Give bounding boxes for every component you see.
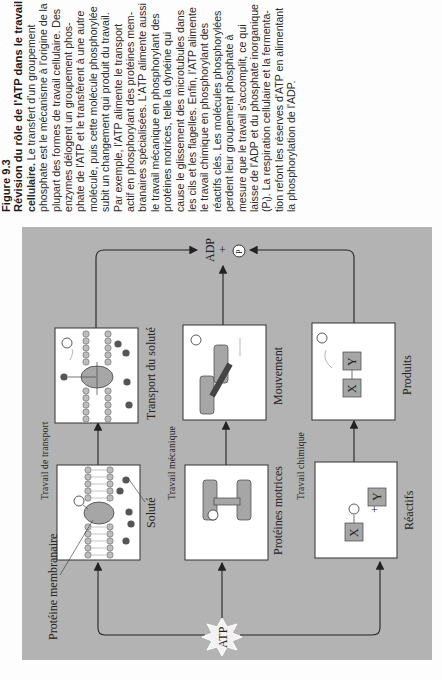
pi-released-icon: [191, 335, 201, 345]
plus-sign: +: [219, 243, 226, 257]
label-protein-line1: Protéine membranaire: [46, 534, 60, 640]
label-products: Produits: [400, 355, 414, 395]
phosphate-icon: [74, 496, 84, 506]
svg-text:ATP: ATP: [216, 626, 230, 648]
figure-svg: Figure 9.3Révision du rôle de l'ATP dans…: [0, 0, 442, 680]
caption-line: enzymes délogent un groupement phos-: [62, 22, 74, 212]
caption-line: laisse de l'ADP et du phosphate inorgani…: [248, 4, 260, 212]
pi-released-icon: [62, 338, 72, 348]
svg-text:+: +: [371, 503, 378, 517]
header-transport: Travail de transport: [40, 421, 50, 500]
pi-released-icon: [317, 333, 327, 343]
caption-line: plupart des formes de travail cellulaire…: [50, 9, 62, 212]
caption-line: cellulaire. Le transfert d'un groupement: [25, 24, 37, 212]
caption-line: (Pᵢ). La respiration cellulaire et la fe…: [260, 10, 272, 212]
caption-line: réactifs clés. Les molécules phosphorylé…: [211, 11, 223, 212]
caption-line: les cils et les flagelles. Enfin, l'ATP …: [186, 7, 198, 212]
caption-line: la phosphorylation de l'ADP.: [285, 81, 297, 212]
phosphate-icon: [349, 504, 359, 514]
adp-label: ADP: [203, 238, 217, 262]
caption-line: molécule, puis cette molécule phosphoryl…: [87, 6, 99, 212]
caption-line: Figure 9.3: [0, 159, 12, 212]
svg-text:P: P: [235, 249, 244, 254]
membrane-protein: [84, 502, 114, 524]
caption-line: Par exemple, l'ATP alimente le transport: [112, 24, 124, 212]
box-transport-after: [55, 328, 138, 423]
svg-text:X: X: [347, 528, 361, 537]
caption-line: le travail chimique en phosphorylant des: [198, 23, 210, 212]
label-movement: Mouvement: [271, 346, 285, 405]
caption-line: perdent leur groupement phosphate à: [223, 35, 235, 212]
caption-line: branaires spécialisées. L'ATP alimente a…: [136, 3, 148, 212]
caption-line: le travail mécanique en phosphorylant de…: [149, 14, 161, 212]
textbook-page: Figure 9.3Révision du rôle de l'ATP dans…: [0, 0, 442, 680]
caption-line: mesure que le travail s'accomplit, ce qu…: [236, 25, 248, 213]
caption-line: subit un changement qui produit du trava…: [99, 12, 111, 212]
svg-text:X: X: [345, 384, 359, 393]
caption-line: protéines motrices, telle la dynéine qui: [161, 32, 173, 212]
box-transport-before: [57, 465, 145, 575]
svg-text:Y: Y: [345, 357, 359, 366]
header-mechanical: Travail mécanique: [167, 426, 177, 500]
box-chemical-after: X Y: [312, 323, 395, 420]
caption-line: phate de l'ATP et le transfèrent à une a…: [74, 11, 86, 212]
header-chemical: Travail chimique: [296, 432, 306, 500]
diagram-panel: [22, 227, 432, 660]
figure-caption: Figure 9.3Révision du rôle de l'ATP dans…: [0, 1, 297, 212]
box-mechanical-before: [185, 465, 268, 560]
label-motor-proteins: Protéines motrices: [271, 466, 285, 555]
label-solute: Soluté: [144, 497, 158, 528]
phosphate-icon: [208, 510, 218, 520]
box-chemical-before: X Y +: [315, 462, 397, 558]
svg-text:Y: Y: [370, 492, 384, 501]
label-solute-transport: Transport du soluté: [144, 327, 158, 420]
caption-line: actif en phosphorylant des protéines mem…: [124, 11, 136, 212]
caption-line: tion refont les réserves d'ATP en alimen…: [273, 8, 285, 212]
caption-line: cause le glissement des microtubules dan…: [174, 10, 186, 212]
caption-line: phosphate est le mécanisme à l'origine d…: [37, 3, 49, 212]
label-reactants: Réactifs: [402, 490, 416, 530]
box-mechanical-after: [183, 325, 266, 420]
caption-line: Révision du rôle de l'ATP dans le travai…: [12, 1, 24, 212]
